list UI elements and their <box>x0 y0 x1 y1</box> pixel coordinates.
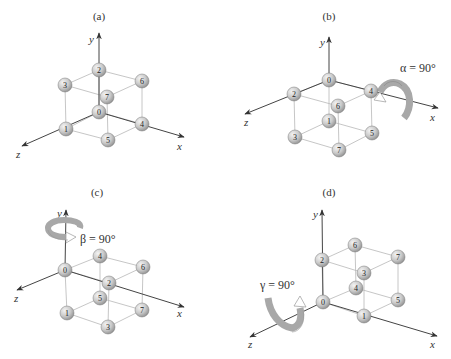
panel-d: (d)yxzγ = 90°67234051 <box>247 186 437 350</box>
vertex-ball-6: 6 <box>135 74 149 88</box>
vertex-number: 2 <box>292 90 296 99</box>
vertex-number: 3 <box>106 323 110 332</box>
z-axis-label: z <box>247 338 253 350</box>
vertex-number: 1 <box>64 125 68 134</box>
vertex-ball-3: 3 <box>58 78 72 92</box>
vertex-number: 3 <box>293 133 297 142</box>
vertex-ball-3: 3 <box>288 130 302 144</box>
vertices: 46025173 <box>58 249 150 334</box>
cube-rotation-figure: (a)yxz23670145(b)yxzα = 90°02461357(c)yx… <box>0 0 451 359</box>
vertex-ball-1: 1 <box>357 309 371 323</box>
vertex-number: 6 <box>336 102 340 111</box>
panel-label: (a) <box>93 10 106 23</box>
z-axis <box>250 302 323 337</box>
vertex-ball-0: 0 <box>316 295 330 309</box>
vertex-ball-3: 3 <box>357 266 371 280</box>
vertex-number: 4 <box>369 87 373 96</box>
vertex-number: 3 <box>362 269 366 278</box>
vertex-ball-1: 1 <box>59 122 73 136</box>
vertex-number: 0 <box>321 298 325 307</box>
vertex-ball-1: 1 <box>322 114 336 128</box>
vertex-ball-4: 4 <box>93 249 107 263</box>
vertex-number: 5 <box>106 136 110 145</box>
vertex-ball-4: 4 <box>135 117 149 131</box>
vertex-number: 0 <box>63 266 67 275</box>
vertex-number: 0 <box>97 108 101 117</box>
vertex-ball-2: 2 <box>315 253 329 267</box>
x-axis-label: x <box>176 140 182 152</box>
vertex-ball-2: 2 <box>92 63 106 77</box>
cube-edges <box>65 256 143 327</box>
figure-canvas: (a)yxz23670145(b)yxzα = 90°02461357(c)yx… <box>0 0 451 359</box>
x-axis-label: x <box>429 111 435 123</box>
vertex-number: 1 <box>327 117 331 126</box>
vertex-ball-6: 6 <box>136 260 150 274</box>
vertex-number: 6 <box>353 241 357 250</box>
rotation-angle-label: γ = 90° <box>259 278 295 292</box>
z-axis <box>17 270 65 290</box>
vertices: 67234051 <box>315 238 405 323</box>
vertex-ball-2: 2 <box>102 276 116 290</box>
z-axis-label: z <box>15 148 21 160</box>
vertex-number: 6 <box>140 77 144 86</box>
vertex-ball-7: 7 <box>135 303 149 317</box>
vertex-number: 5 <box>396 296 400 305</box>
y-axis-label: y <box>88 33 94 45</box>
vertex-number: 4 <box>98 252 102 261</box>
vertex-number: 5 <box>370 129 374 138</box>
vertex-number: 7 <box>337 146 341 155</box>
vertex-ball-5: 5 <box>101 133 115 147</box>
vertex-number: 2 <box>320 256 324 265</box>
vertex-ball-3: 3 <box>101 320 115 334</box>
vertex-number: 2 <box>97 66 101 75</box>
vertex-number: 7 <box>396 253 400 262</box>
panel-b: (b)yxzα = 90°02461357 <box>243 10 438 157</box>
vertex-ball-2: 2 <box>287 87 301 101</box>
cube-edges <box>65 70 142 140</box>
vertex-ball-5: 5 <box>365 126 379 140</box>
vertex-number: 4 <box>140 120 144 129</box>
rotation-angle-label: β = 90° <box>80 232 116 246</box>
panel-label: (c) <box>91 186 104 199</box>
vertex-ball-4: 4 <box>349 281 363 295</box>
y-axis-label: y <box>319 36 325 48</box>
vertex-ball-1: 1 <box>60 306 74 320</box>
vertex-ball-5: 5 <box>391 293 405 307</box>
vertex-number: 5 <box>98 294 102 303</box>
y-axis-label: y <box>312 208 318 220</box>
vertex-number: 4 <box>354 284 358 293</box>
panel-a: (a)yxz23670145 <box>15 10 184 160</box>
vertices: 23670145 <box>58 63 149 147</box>
vertex-ball-7: 7 <box>391 250 405 264</box>
axes: yxz <box>15 33 184 160</box>
vertex-ball-0: 0 <box>92 105 106 119</box>
vertex-number: 7 <box>105 93 109 102</box>
vertex-number: 1 <box>65 309 69 318</box>
vertex-ball-0: 0 <box>58 263 72 277</box>
vertex-ball-7: 7 <box>100 90 114 104</box>
vertex-number: 6 <box>141 263 145 272</box>
rotation-arrow-z-icon <box>268 296 306 332</box>
panel-label: (b) <box>323 10 336 23</box>
vertex-number: 0 <box>327 76 331 85</box>
rotation-angle-label: α = 90° <box>400 61 436 75</box>
x-axis-label: x <box>429 338 435 350</box>
vertex-number: 7 <box>140 306 144 315</box>
z-axis <box>245 80 329 114</box>
x-axis <box>323 302 437 336</box>
vertex-ball-4: 4 <box>364 84 378 98</box>
vertex-ball-7: 7 <box>332 143 346 157</box>
panel-label: (d) <box>323 186 336 199</box>
vertex-number: 1 <box>362 312 366 321</box>
vertex-number: 2 <box>107 279 111 288</box>
vertex-ball-5: 5 <box>93 291 107 305</box>
z-axis-label: z <box>243 116 249 128</box>
z-axis-label: z <box>13 292 19 304</box>
vertices: 02461357 <box>287 73 379 157</box>
rotation-arrow-y-icon <box>48 220 80 243</box>
vertex-ball-6: 6 <box>331 99 345 113</box>
vertex-number: 3 <box>63 81 67 90</box>
x-axis-label: x <box>176 307 182 319</box>
panel-c: (c)yxzβ = 90°46025173 <box>13 186 184 334</box>
vertex-ball-6: 6 <box>348 238 362 252</box>
